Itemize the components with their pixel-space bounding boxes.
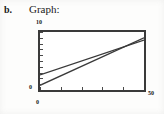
x-tick-2 bbox=[82, 87, 83, 90]
x-tick-4 bbox=[123, 87, 124, 90]
y-tick-4 bbox=[40, 67, 43, 68]
plot-area bbox=[38, 30, 146, 92]
y-tick-9 bbox=[40, 38, 43, 39]
y-tick-7 bbox=[40, 49, 43, 50]
x-axis-min-label: 0 bbox=[36, 99, 39, 105]
y-tick-1 bbox=[40, 84, 43, 85]
list-item-label: b. bbox=[4, 4, 12, 15]
x-axis-max-label: 50 bbox=[148, 90, 154, 96]
figure-heading: Graph: bbox=[29, 3, 60, 15]
y-tick-8 bbox=[40, 44, 43, 45]
y-tick-10 bbox=[40, 32, 43, 33]
chart-line-1 bbox=[40, 38, 144, 86]
series-layer bbox=[40, 38, 144, 86]
plot-svg bbox=[40, 32, 144, 90]
x-tick-0 bbox=[40, 87, 41, 90]
y-tick-6 bbox=[40, 55, 43, 56]
plot-inner bbox=[40, 32, 144, 90]
y-tick-5 bbox=[40, 61, 43, 62]
x-tick-1 bbox=[61, 87, 62, 90]
figure-container: b. Graph: 10 0 0 50 bbox=[0, 0, 164, 114]
y-tick-3 bbox=[40, 73, 43, 74]
y-tick-2 bbox=[40, 78, 43, 79]
y-axis-min-label: 0 bbox=[29, 84, 32, 90]
x-tick-3 bbox=[102, 87, 103, 90]
y-axis-max-label: 10 bbox=[36, 19, 42, 25]
